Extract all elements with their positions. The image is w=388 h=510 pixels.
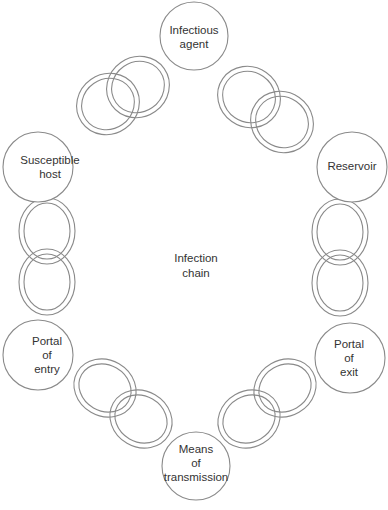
- node-label-line: of: [32, 348, 62, 362]
- node-label-line: Portal: [334, 337, 364, 351]
- node-means-of-transmission: Means of transmission: [164, 442, 229, 484]
- node-reservoir: Reservoir: [327, 159, 376, 173]
- node-label-line: of: [164, 456, 229, 470]
- node-label-line: transmission: [164, 470, 229, 484]
- chain-link-agent-to-reservoir: [206, 54, 326, 165]
- center-title-line: chain: [174, 266, 217, 281]
- node-label-line: Reservoir: [327, 159, 376, 173]
- center-title-line: Infection: [174, 251, 217, 266]
- node-label-line: Infectious: [169, 23, 218, 37]
- node-portal-of-entry: Portal of entry: [32, 334, 62, 376]
- node-label-line: entry: [32, 362, 62, 376]
- node-label-line: Means: [164, 442, 229, 456]
- chain-link-host-to-agent: [65, 44, 182, 147]
- chain-link-entry-to-host: [19, 198, 75, 315]
- node-label-line: Portal: [32, 334, 62, 348]
- node-infectious-agent: Infectious agent: [169, 23, 218, 51]
- node-label-line: of: [334, 351, 364, 365]
- chain-link-reservoir-to-exit: [312, 199, 368, 316]
- diagram-center-title: Infection chain: [174, 251, 217, 281]
- node-portal-of-exit: Portal of exit: [334, 337, 364, 379]
- node-label-line: exit: [334, 365, 364, 379]
- node-label-line: Susceptible: [20, 153, 79, 167]
- node-label-line: host: [20, 167, 79, 181]
- node-susceptible-host: Susceptible host: [20, 153, 79, 181]
- node-label-line: agent: [169, 37, 218, 51]
